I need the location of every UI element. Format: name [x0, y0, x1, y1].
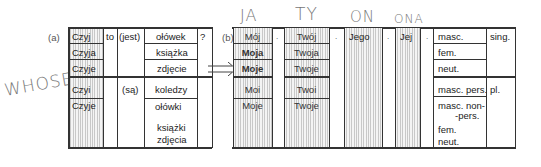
twoj-neut: Twoje	[284, 63, 329, 74]
dot-separator-4: .	[426, 32, 428, 41]
twoj-fem: Twoja	[284, 47, 329, 58]
handwritten-ty: TY	[295, 4, 318, 24]
noun-koledzy: koledzy	[155, 84, 187, 95]
jego: Jego	[349, 31, 370, 42]
question-mark: ?	[200, 31, 205, 42]
jej-column-shade	[395, 28, 420, 147]
gender-fem-sing: fem.	[438, 47, 456, 58]
number-sing: sing.	[490, 31, 510, 42]
twoj-masc-pers-pl: Twoi	[284, 84, 329, 95]
czyj-masc: Czyj	[72, 31, 90, 42]
moj-masc: Mój	[233, 31, 272, 42]
word-sa: (są)	[122, 84, 138, 95]
jego-column-shade	[344, 28, 382, 147]
moj-neut: Moje	[233, 63, 272, 74]
dot-separator-3: .	[387, 32, 389, 41]
gender-neut-sing: neut.	[438, 63, 459, 74]
gender-masc-sing: masc.	[438, 31, 463, 42]
gender-masc-pers-pl: masc. pers.	[438, 84, 487, 95]
jej: Jej	[400, 31, 412, 42]
gender-fem-pl: fem.	[438, 124, 456, 135]
noun-olowki: ołówki	[155, 101, 181, 112]
czyj-fem: Czyja	[72, 47, 96, 58]
czyj-masc-pers-pl: Czyi	[72, 84, 90, 95]
label-b: (b)	[222, 32, 234, 43]
label-a: (a)	[48, 32, 60, 43]
noun-zdjecia: zdjęcia	[157, 134, 187, 145]
handwritten-whose: WHOSE	[3, 68, 75, 100]
dot-separator-2: .	[335, 32, 337, 41]
number-pl: pl.	[490, 84, 500, 95]
gender-neut-pl: neut.	[438, 136, 459, 147]
moj-fem: Moja	[233, 47, 272, 58]
noun-ksiazka: książka	[156, 47, 188, 58]
word-jest: (jest)	[119, 31, 140, 42]
twoj-non-pers-pl: Twoje	[284, 100, 329, 111]
twoj-masc: Twój	[284, 31, 329, 42]
handwritten-on: ON	[350, 8, 375, 26]
gender-masc-non-pers-pl-2: -pers.	[455, 110, 479, 121]
noun-zdjecie: zdjęcie	[157, 63, 187, 74]
handwritten-ja: JA	[240, 6, 257, 25]
czyj-neut: Czyje	[72, 63, 96, 74]
moj-masc-pers-pl: Moi	[233, 84, 272, 95]
moj-non-pers-pl: Moje	[233, 100, 272, 111]
handwritten-ona: ONA	[394, 12, 424, 26]
dot-separator-1: .	[276, 32, 278, 41]
noun-olowek: ołówek	[156, 31, 186, 42]
noun-ksiazki: książki	[157, 122, 186, 133]
word-to: to	[106, 31, 114, 42]
czyj-non-pers-pl: Czyje	[72, 100, 96, 111]
